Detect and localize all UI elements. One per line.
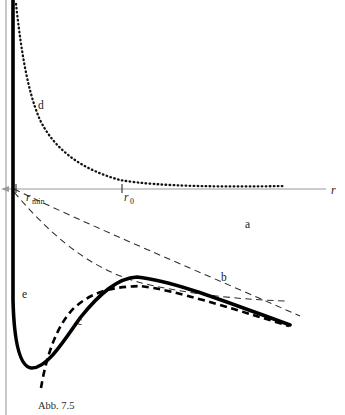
curve-label-d: d	[38, 99, 44, 111]
x-axis-arrow-left-icon	[1, 186, 9, 192]
tick-label-r0: r 0	[124, 191, 134, 206]
figure-caption: Abb. 7.5	[38, 400, 74, 411]
tick-label-r0-sub: 0	[130, 197, 134, 206]
tick-label-rmin: r min	[26, 191, 44, 206]
curve-c-dashed-thick	[41, 286, 289, 388]
tick-label-rmin-sub: min	[32, 197, 44, 206]
curve-label-e: e	[22, 288, 27, 300]
x-axis-label: r	[331, 183, 336, 197]
curve-b-dashed	[14, 189, 300, 316]
curve-d-dotted	[16, 4, 285, 186]
curve-label-c: c	[77, 315, 82, 327]
potential-energy-plot: r r min r 0 a b c d e Abb. 7.5	[0, 0, 345, 415]
figure-container: r r min r 0 a b c d e Abb. 7.5	[0, 0, 345, 415]
curve-label-a: a	[245, 218, 250, 230]
tick-label-rmin-base: r	[26, 191, 31, 203]
tick-label-r0-base: r	[124, 191, 129, 203]
curve-label-b: b	[221, 271, 227, 283]
